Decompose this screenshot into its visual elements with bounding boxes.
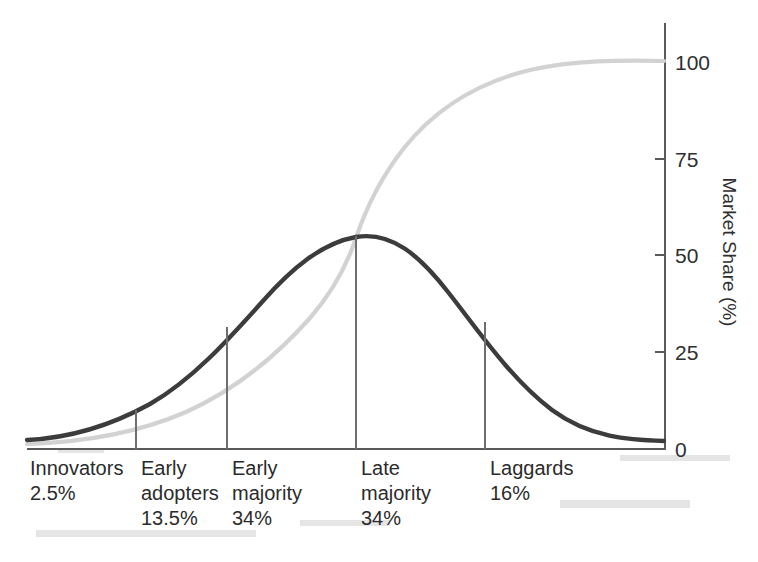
- segment-early-adopters-line1: Early: [141, 457, 187, 479]
- segment-label-late-majority: Late majority 34%: [361, 457, 431, 529]
- segment-label-laggards: Laggards 16%: [490, 457, 573, 504]
- segment-early-adopters-line3: 13.5%: [141, 507, 198, 529]
- segment-labels: Innovators 2.5% Early adopters 13.5% Ear…: [30, 457, 573, 529]
- segment-early-adopters-line2: adopters: [141, 482, 219, 504]
- segment-late-majority-line1: Late: [361, 457, 400, 479]
- segment-early-majority-line2: majority: [232, 482, 302, 504]
- segment-laggards-line2: 16%: [490, 482, 530, 504]
- segment-innovators-line1: Innovators: [30, 457, 123, 479]
- segment-innovators-line2: 2.5%: [30, 482, 76, 504]
- y-axis-title: Market Share (%): [719, 178, 740, 327]
- segment-early-majority-line3: 34%: [232, 507, 272, 529]
- chart-canvas: 100 75 50 25 0 Market Share (%) Innovato…: [0, 0, 758, 562]
- y-tick-label-75: 75: [675, 148, 698, 171]
- y-axis-tick-labels: 100 75 50 25 0: [675, 51, 710, 461]
- segment-label-innovators: Innovators 2.5%: [30, 457, 123, 504]
- segment-early-majority-line1: Early: [232, 457, 278, 479]
- segment-label-early-majority: Early majority 34%: [232, 457, 302, 529]
- y-tick-label-100: 100: [675, 51, 710, 74]
- segment-laggards-line1: Laggards: [490, 457, 573, 479]
- segment-late-majority-line2: majority: [361, 482, 431, 504]
- y-tick-label-25: 25: [675, 341, 698, 364]
- segment-dividers: [136, 236, 485, 449]
- diffusion-of-innovation-chart: 100 75 50 25 0 Market Share (%) Innovato…: [0, 0, 758, 562]
- cumulative-adoption-curve: [27, 61, 664, 444]
- segment-late-majority-line3: 34%: [361, 507, 401, 529]
- axes: [27, 23, 666, 450]
- y-tick-label-50: 50: [675, 244, 698, 267]
- y-tick-label-0: 0: [675, 438, 687, 461]
- segment-label-early-adopters: Early adopters 13.5%: [141, 457, 219, 529]
